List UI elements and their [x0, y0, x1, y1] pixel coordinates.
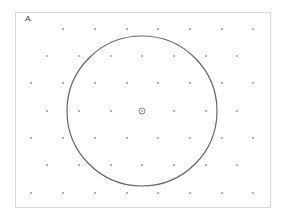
grid-dot: [189, 137, 191, 139]
grid-dot: [94, 137, 96, 139]
grid-dot: [252, 28, 254, 30]
grid-dot: [78, 164, 80, 166]
grid-dot: [189, 82, 191, 84]
grid-dot: [221, 82, 223, 84]
grid-dot: [173, 164, 175, 166]
grid-dot: [221, 192, 223, 194]
grid-dot: [110, 110, 112, 112]
grid-dot: [30, 137, 32, 139]
grid-dot: [46, 164, 48, 166]
grid-dot: [78, 110, 80, 112]
grid-dot: [157, 192, 159, 194]
grid-dot: [110, 55, 112, 57]
grid-dot: [62, 28, 64, 30]
grid-dot: [189, 192, 191, 194]
grid-dot: [157, 82, 159, 84]
grid-dot: [236, 110, 238, 112]
grid-dot: [252, 82, 254, 84]
grid-dot: [62, 137, 64, 139]
grid-dot: [205, 164, 207, 166]
grid-dot: [157, 28, 159, 30]
grid-dot: [78, 55, 80, 57]
grid-dot: [252, 137, 254, 139]
grid-dot: [126, 28, 128, 30]
grid-dot: [62, 82, 64, 84]
grid-dot: [46, 55, 48, 57]
grid-dot: [236, 55, 238, 57]
grid-dot: [141, 55, 143, 57]
grid-dot: [94, 28, 96, 30]
grid-dot: [46, 110, 48, 112]
grid-dot: [252, 192, 254, 194]
grid-dot: [110, 164, 112, 166]
grid-dot: [126, 192, 128, 194]
grid-dot: [221, 28, 223, 30]
grid-dot: [141, 164, 143, 166]
grid-dot: [205, 55, 207, 57]
grid-dot: [30, 82, 32, 84]
grid-dot: [221, 137, 223, 139]
grid-dot: [62, 192, 64, 194]
grid-dot: [173, 110, 175, 112]
diagram-canvas: [0, 0, 284, 219]
grid-dot: [189, 28, 191, 30]
grid-dot: [173, 55, 175, 57]
grid-dot: [94, 82, 96, 84]
grid-dot: [205, 110, 207, 112]
grid-dot: [30, 192, 32, 194]
grid-dot: [236, 164, 238, 166]
grid-dot: [94, 192, 96, 194]
grid-dot: [157, 137, 159, 139]
grid-dot: [126, 137, 128, 139]
center-dot: [141, 110, 143, 112]
grid-dot: [126, 82, 128, 84]
